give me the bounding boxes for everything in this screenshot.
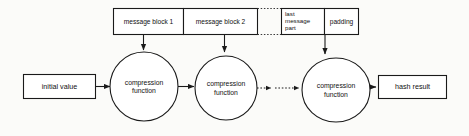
hash-result-node: hash result [379, 76, 447, 99]
compression-function-3-label-line2: function [324, 91, 348, 98]
hash-construction-diagram: message block 1 message block 2 last mes… [0, 0, 469, 136]
initial-value-node: initial value [24, 75, 96, 99]
compression-function-1-node: compression function [110, 52, 178, 121]
diagram-canvas: message block 1 message block 2 last mes… [0, 0, 469, 136]
compression-function-2-label-line1: compression [207, 80, 246, 88]
message-block-bar: message block 1 message block 2 last mes… [114, 9, 359, 35]
last-message-part-label-line2: message [285, 17, 311, 24]
padding-label: padding [330, 18, 354, 26]
compression-function-1-label-line2: function [132, 87, 156, 94]
compression-function-1-label-line1: compression [125, 79, 164, 87]
initial-value-label: initial value [42, 82, 78, 91]
continuation-gap-cell [258, 9, 282, 35]
last-message-part-label-line1: last [285, 10, 295, 17]
hash-result-label: hash result [395, 82, 430, 91]
message-block-1-label: message block 1 [124, 18, 174, 26]
compression-function-3-label-line1: compression [317, 82, 356, 90]
compression-function-2-node: compression function [195, 56, 257, 120]
compression-function-3-node: compression function [302, 58, 370, 122]
compression-function-2-label-line2: function [214, 89, 238, 96]
last-message-part-label-line3: part [285, 24, 296, 31]
message-block-2-label: message block 2 [196, 18, 246, 26]
